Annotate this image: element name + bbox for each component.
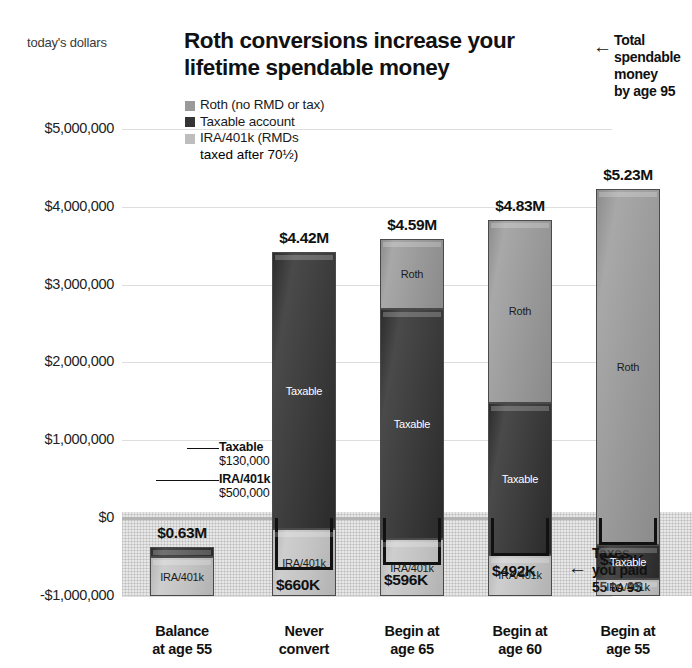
x-axis-label-4: Begin atage 55 <box>568 622 688 658</box>
leader-line-taxable <box>187 448 219 449</box>
units-label: today's dollars <box>27 35 107 50</box>
callout-taxable: Taxable $130,000 <box>219 440 270 468</box>
y-tick-label: $2,000,000 <box>0 353 114 369</box>
y-tick-label: -$1,000,000 <box>0 587 114 603</box>
tax-paid-box-4[interactable] <box>599 518 657 545</box>
bar-total-label: $4.59M <box>387 216 436 234</box>
bar-segment-label: Taxable <box>502 473 539 485</box>
bar-total-label: $0.63M <box>157 524 206 542</box>
bar-segment-label: Taxable <box>394 418 431 430</box>
bar-segment-roth[interactable]: Roth <box>488 220 552 403</box>
callout-ira-value: $500,000 <box>219 486 270 500</box>
x-axis-label-2: Begin atage 65 <box>352 622 472 658</box>
bar-segment-label: Taxable <box>610 556 647 568</box>
bar-segment-roth[interactable]: Roth <box>380 239 444 309</box>
segment-highlight <box>599 192 657 197</box>
chart-root: today's dollars Roth conversions increas… <box>0 0 692 668</box>
bar-segment-label: IRA/401k <box>606 581 650 593</box>
tax-paid-label: $660K <box>276 576 320 594</box>
x-axis-label-0: Balanceat age 55 <box>122 622 242 658</box>
x-axis-label-line: Begin at <box>460 622 580 640</box>
x-axis-label-line: Never <box>244 622 364 640</box>
y-tick-label: $4,000,000 <box>0 198 114 214</box>
bar-segment-taxable[interactable] <box>150 547 214 557</box>
segment-highlight <box>275 255 333 260</box>
bar-segment-taxable[interactable]: Taxable <box>380 309 444 539</box>
segment-highlight <box>153 550 211 555</box>
bar-total-label: $4.83M <box>495 197 544 215</box>
taxes-paid-arrow-icon: ← <box>568 558 587 577</box>
x-axis-label-line: age 60 <box>460 640 580 658</box>
y-tick-label: $3,000,000 <box>0 276 114 292</box>
x-axis-label-3: Begin atage 60 <box>460 622 580 658</box>
plot-area: IRA/401k$0.63MIRA/401kTaxable$4.42MIRA/4… <box>122 90 612 596</box>
gridline--1000000 <box>122 596 612 597</box>
x-axis-label-line: Begin at <box>352 622 472 640</box>
segment-highlight <box>491 223 549 228</box>
bar-segment-label: IRA/401k <box>498 569 542 581</box>
segment-highlight <box>383 312 441 317</box>
leader-line-ira <box>156 480 219 481</box>
x-axis-label-line: convert <box>244 640 364 658</box>
annotation-line: money <box>614 66 692 83</box>
annotation-total-spendable: Total spendable money by age 95 <box>614 32 692 100</box>
bar-segment-ira[interactable]: IRA/401k <box>488 555 552 596</box>
annotation-line: by age 95 <box>614 83 692 100</box>
gridline-5000000 <box>122 129 612 130</box>
segment-highlight <box>599 548 657 553</box>
segment-highlight <box>153 560 211 565</box>
bar-segment-label: IRA/401k <box>160 571 204 583</box>
x-axis-label-line: Balance <box>122 622 242 640</box>
bar-total-label: $5.23M <box>603 166 652 184</box>
page-title: Roth conversions increase your lifetime … <box>184 28 584 81</box>
x-axis-label-1: Neverconvert <box>244 622 364 658</box>
x-axis-label-line: age 55 <box>568 640 688 658</box>
bar-segment-label: Roth <box>509 305 531 317</box>
y-tick-label: $5,000,000 <box>0 120 114 136</box>
segment-highlight <box>491 406 549 411</box>
annotation-line: spendable <box>614 49 692 66</box>
x-axis-label-line: at age 55 <box>122 640 242 658</box>
bar-segment-label: Roth <box>617 361 639 373</box>
callout-ira-label: IRA/401k <box>219 472 270 486</box>
bar-segment-roth[interactable]: Roth <box>596 189 660 545</box>
bar-segment-label: IRA/401k <box>390 562 434 574</box>
bar-segment-ira[interactable]: IRA/401k <box>150 557 214 596</box>
y-tick-label: $1,000,000 <box>0 431 114 447</box>
segment-highlight <box>491 558 549 563</box>
bar-segment-label: Roth <box>401 268 423 280</box>
x-axis-label-line: Begin at <box>568 622 688 640</box>
bar-segment-label: Taxable <box>286 385 323 397</box>
total-spendable-arrow-icon: ← <box>593 37 612 56</box>
bar-group-0[interactable]: IRA/401k$0.63M <box>150 518 214 596</box>
y-tick-label: $0 <box>0 509 114 525</box>
segment-highlight <box>275 532 333 537</box>
callout-ira: IRA/401k $500,000 <box>219 472 270 500</box>
bar-segment-label: IRA/401k <box>282 557 326 569</box>
x-axis-label-line: age 65 <box>352 640 472 658</box>
tax-paid-box-3[interactable] <box>491 518 549 556</box>
callout-taxable-label: Taxable <box>219 440 263 454</box>
segment-highlight <box>383 542 441 547</box>
annotation-line: Total <box>614 32 692 49</box>
segment-highlight <box>383 242 441 247</box>
bar-segment-taxable[interactable]: Taxable <box>272 252 336 529</box>
callout-taxable-value: $130,000 <box>219 454 270 468</box>
bar-total-label: $4.42M <box>279 229 328 247</box>
